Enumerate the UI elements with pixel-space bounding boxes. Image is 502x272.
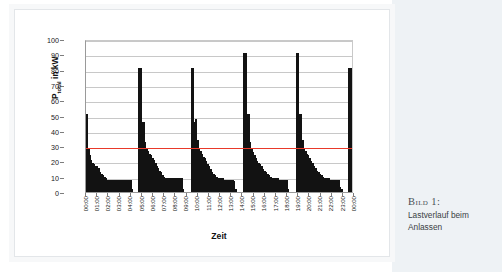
x-axis-tick-mark [308, 193, 309, 196]
x-axis-tick-label: 11:00 [205, 196, 212, 211]
x-axis-tick-label: 03:00 [115, 196, 122, 211]
caption-title: Bild 1: [408, 196, 500, 207]
x-axis-tick-mark [119, 193, 120, 196]
y-axis-title-sub: total [56, 81, 62, 93]
caption-panel: Bild 1: Lastverlauf beim Anlassen [392, 0, 502, 272]
x-axis-tick-mark [130, 193, 131, 196]
bar-series [86, 41, 352, 192]
x-axis-tick-label: 07:00 [160, 196, 167, 211]
y-axis-tick-label: 10 [33, 173, 59, 182]
x-axis-tick-mark [331, 193, 332, 196]
x-axis-tick-mark [174, 193, 175, 196]
y-axis-tick-label: 40 [33, 127, 59, 136]
x-axis-tick-mark [219, 193, 220, 196]
chart-frame: 0102030405060708090100 Ptotal in kW 00:0… [33, 20, 373, 244]
x-axis-tick-mark [286, 193, 287, 196]
x-axis-tick-mark [230, 193, 231, 196]
y-axis-tick-label: 30 [33, 143, 59, 152]
x-axis: 00:0001:0002:0003:0004:0005:0006:0007:00… [85, 196, 353, 230]
x-axis-tick-label: 00:00 [350, 196, 357, 211]
x-axis-tick-label: 17:00 [272, 196, 279, 211]
x-axis-tick-mark [253, 193, 254, 196]
x-axis-tick-label: 01:00 [93, 196, 100, 211]
figure-caption: Bild 1: Lastverlauf beim Anlassen [408, 196, 500, 233]
x-axis-tick-label: 12:00 [216, 196, 223, 211]
x-axis-tick-label: 09:00 [182, 196, 189, 211]
x-axis-tick-label: 22:00 [327, 196, 334, 211]
x-axis-tick-mark [208, 193, 209, 196]
x-axis-tick-mark [320, 193, 321, 196]
y-axis-tick-label: 20 [33, 158, 59, 167]
y-axis-tick-mark [60, 132, 64, 133]
plot-area [85, 40, 353, 193]
x-axis-tick-mark [241, 193, 242, 196]
bar [131, 189, 133, 192]
x-axis-tick-label: 20:00 [305, 196, 312, 211]
x-axis-tick-mark [342, 193, 343, 196]
x-axis-tick-label: 15:00 [249, 196, 256, 211]
x-axis-tick-label: 21:00 [316, 196, 323, 211]
figure-page: Bild 1: Lastverlauf beim Anlassen 010203… [0, 0, 502, 272]
y-axis-title-base: P [50, 94, 60, 100]
x-axis-tick-label: 14:00 [238, 196, 245, 211]
x-axis-tick-mark [353, 193, 354, 196]
x-axis-tick-mark [152, 193, 153, 196]
y-axis-tick-mark [60, 147, 64, 148]
x-axis-tick-label: 13:00 [227, 196, 234, 211]
x-axis-tick-label: 16:00 [260, 196, 267, 211]
x-axis-title: Zeit [85, 231, 353, 241]
x-axis-tick-mark [197, 193, 198, 196]
caption-text: Lastverlauf beim Anlassen [408, 210, 500, 233]
x-axis-tick-label: 23:00 [339, 196, 346, 211]
x-axis-tick-mark [186, 193, 187, 196]
bar [287, 189, 289, 192]
x-axis-tick-label: 19:00 [294, 196, 301, 211]
threshold-line [86, 148, 352, 149]
x-axis-tick-label: 00:00 [82, 196, 89, 211]
x-axis-tick-mark [297, 193, 298, 196]
bar [351, 122, 353, 192]
x-axis-tick-label: 05:00 [138, 196, 145, 211]
figure-card: 0102030405060708090100 Ptotal in kW 00:0… [14, 9, 390, 257]
x-axis-tick-label: 08:00 [171, 196, 178, 211]
x-axis-tick-mark [275, 193, 276, 196]
bar [235, 189, 237, 192]
y-axis-tick-mark [60, 193, 64, 194]
x-axis-tick-label: 10:00 [193, 196, 200, 211]
bar [341, 189, 343, 192]
x-axis-tick-mark [96, 193, 97, 196]
x-axis-tick-mark [85, 193, 86, 196]
y-axis-title: Ptotal in kW [50, 39, 62, 117]
x-axis-tick-mark [163, 193, 164, 196]
y-axis-tick-mark [60, 178, 64, 179]
x-axis-tick-mark [107, 193, 108, 196]
x-axis-tick-label: 02:00 [104, 196, 111, 211]
x-axis-tick-label: 06:00 [149, 196, 156, 211]
bar [182, 189, 184, 192]
x-axis-tick-label: 04:00 [126, 196, 133, 211]
x-axis-tick-mark [141, 193, 142, 196]
y-axis-title-unit: in kW [50, 57, 60, 82]
y-axis-tick-label: 0 [33, 189, 59, 198]
y-axis-tick-mark [60, 162, 64, 163]
x-axis-tick-label: 18:00 [283, 196, 290, 211]
x-axis-tick-mark [264, 193, 265, 196]
